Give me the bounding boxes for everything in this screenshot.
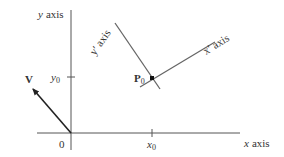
vector-v-label: V bbox=[25, 73, 33, 85]
x-axis-label: xaxis bbox=[243, 137, 270, 149]
x0-label: x0 bbox=[146, 138, 156, 152]
x-prime-axis-label: x′ axis bbox=[201, 31, 231, 56]
y-prime-axis-label: y′ axis bbox=[87, 27, 113, 57]
p0-point bbox=[150, 76, 154, 80]
coordinate-rotation-diagram: yaxis xaxis 0 y0 x0 V P0 y′ axis x′ axis bbox=[0, 0, 284, 157]
y-axis-label: yaxis bbox=[37, 8, 64, 20]
p0-label: P0 bbox=[134, 72, 145, 86]
vector-v-arrow bbox=[33, 89, 71, 133]
diagram-canvas: yaxis xaxis 0 y0 x0 V P0 y′ axis x′ axis bbox=[0, 0, 284, 157]
origin-label: 0 bbox=[59, 138, 65, 150]
y0-label: y0 bbox=[50, 71, 60, 85]
